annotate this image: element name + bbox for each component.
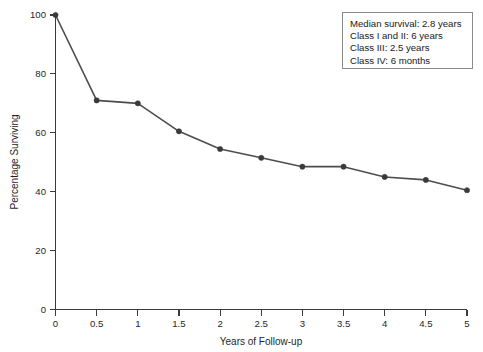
data-point [259, 155, 264, 160]
x-tick-label: 3 [300, 318, 305, 329]
data-point [341, 164, 346, 169]
y-tick-label: 0 [41, 304, 46, 315]
x-tick-label: 3.5 [337, 318, 350, 329]
data-point [382, 174, 387, 179]
annotation-line-class-1-2: Class I and II: 6 years [350, 30, 472, 42]
x-tick-label: 0.5 [90, 318, 103, 329]
x-tick-label: 5 [464, 318, 469, 329]
survival-curve-chart: 020406080100 00.511.522.533.544.55 Years… [0, 0, 483, 352]
x-tick-label: 0 [53, 318, 58, 329]
x-tick-label: 1.5 [172, 318, 185, 329]
data-point [53, 12, 58, 17]
data-point [300, 164, 305, 169]
x-axis-ticks: 00.511.522.533.544.55 [53, 310, 470, 330]
x-tick-label: 4.5 [419, 318, 432, 329]
data-point [176, 129, 181, 134]
x-axis-title: Years of Follow-up [220, 336, 303, 347]
annotation-line-median-survival: Median survival: 2.8 years [350, 18, 472, 30]
y-tick-label: 20 [35, 245, 46, 256]
y-axis-ticks: 020406080100 [30, 9, 56, 315]
data-point [135, 101, 140, 106]
y-axis-title: Percentage Surviving [9, 114, 20, 209]
y-tick-label: 60 [35, 127, 46, 138]
x-tick-label: 1 [135, 318, 140, 329]
data-point [218, 146, 223, 151]
x-tick-label: 2 [217, 318, 222, 329]
data-point [423, 177, 428, 182]
annotation-line-class-3: Class III: 2.5 years [350, 42, 472, 54]
annotation-line-class-4: Class IV: 6 months [350, 55, 472, 67]
y-tick-label: 80 [35, 68, 46, 79]
x-tick-label: 4 [382, 318, 388, 329]
x-tick-label: 2.5 [255, 318, 268, 329]
annotation-box: Median survival: 2.8 years Class I and I… [342, 12, 473, 69]
y-tick-label: 40 [35, 186, 46, 197]
data-point [94, 98, 99, 103]
data-point [464, 188, 469, 193]
y-tick-label: 100 [30, 9, 46, 20]
